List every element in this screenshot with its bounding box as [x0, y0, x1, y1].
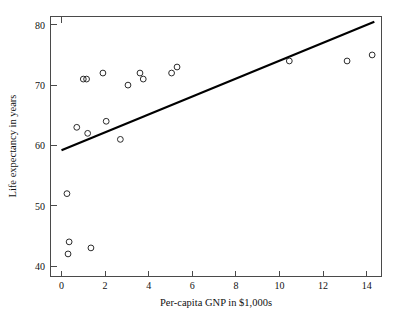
x-tick-label: 4 — [146, 280, 151, 291]
y-axis-title: Life expectancy in years — [7, 95, 18, 198]
x-tick-label: 12 — [318, 280, 328, 291]
x-tick-label: 14 — [362, 280, 372, 291]
scatter-plot-figure: 0 2 4 6 8 10 12 14 40 50 60 70 80 Per-ca… — [0, 0, 399, 323]
x-tick-label: 8 — [233, 280, 238, 291]
x-axis-title: Per-capita GNP in $1,000s — [160, 297, 272, 308]
x-tick-label: 6 — [190, 280, 195, 291]
y-tick-label: 60 — [35, 140, 45, 151]
y-tick-label: 70 — [35, 80, 45, 91]
y-tick-label: 80 — [35, 20, 45, 31]
y-tick-label: 40 — [35, 261, 45, 272]
chart-canvas: 0 2 4 6 8 10 12 14 40 50 60 70 80 Per-ca… — [0, 0, 399, 323]
x-tick-label: 10 — [275, 280, 285, 291]
y-tick-label: 50 — [35, 201, 45, 212]
x-tick-label: 0 — [59, 280, 64, 291]
x-tick-label: 2 — [103, 280, 108, 291]
chart-background — [0, 0, 399, 323]
